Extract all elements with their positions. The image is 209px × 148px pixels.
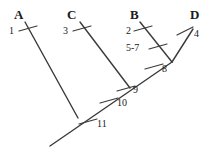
character-label-2: 2 [126,26,131,36]
character-label-3: 3 [63,26,68,36]
character-tick-marks [19,26,193,124]
character-label-4: 4 [194,29,199,39]
character-label-8: 8 [162,64,167,74]
branch-line-D [172,29,193,62]
branch-line-C [80,22,130,88]
taxon-label-B: B [130,8,139,21]
branch-line-trunk [50,62,172,146]
character-label-11: 11 [97,119,107,129]
character-label-9: 9 [133,85,138,95]
branch-lines [25,22,193,146]
character-label-1: 1 [9,26,14,36]
taxon-label-C: C [67,8,76,21]
tick-mark-8 [145,64,163,69]
taxon-label-D: D [190,8,199,21]
tick-mark-3 [73,26,91,31]
character-label-5-7: 5-7 [126,43,139,53]
branch-line-A [25,22,78,118]
taxon-label-A: A [14,8,23,21]
cladogram-figure: A C B D 1 3 2 4 5-7 8 9 10 11 [0,0,209,148]
character-label-10: 10 [117,98,127,108]
